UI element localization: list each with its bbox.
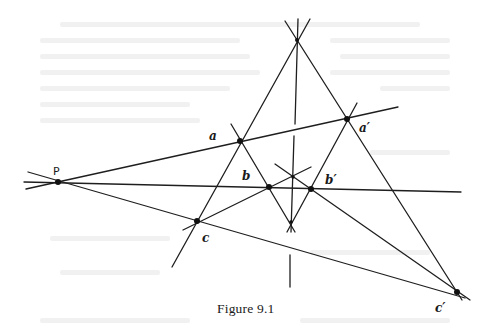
line-vertical-middle [291,136,294,232]
line-b-prime-c-prime [275,164,470,300]
line-a-prime-b-prime [287,103,357,232]
figure-caption: Figure 9.1 [217,301,275,317]
point-a [237,138,243,144]
line-P-a-a-prime [26,107,398,189]
label-a: a [209,129,217,143]
label-b-prime: b′ [325,173,337,187]
label-b: b [242,169,250,183]
label-c-prime: c′ [435,301,446,315]
point-P [55,179,61,185]
point-c-prime [454,289,460,295]
desargues-figure: P a a′ b b′ c c′ [0,0,496,336]
line-vertical-upper [295,19,298,124]
point-b [266,184,272,190]
label-c: c [202,231,210,245]
label-P: P [53,165,60,178]
point-c [194,218,200,224]
line-O-a-prime-c-prime [285,21,462,300]
point-O [295,38,299,42]
point-b-prime [308,186,314,192]
point-a-prime [344,116,350,122]
point-intersection-upper [291,175,295,179]
point-intersection-lower [289,220,293,224]
label-a-prime: a′ [359,121,371,135]
line-P-b-b-prime [24,182,461,192]
